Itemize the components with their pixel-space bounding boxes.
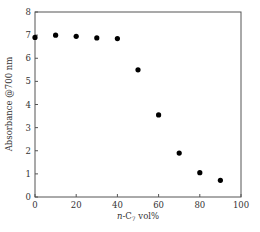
y-tick-label: 4 (26, 100, 31, 110)
y-tick-label: 6 (26, 53, 31, 63)
x-tick-label: 100 (233, 200, 249, 210)
y-tick-label: 8 (26, 7, 31, 17)
data-point (74, 34, 79, 39)
x-tick-label: 60 (153, 200, 164, 210)
data-point (32, 35, 37, 40)
plot-area (35, 12, 241, 197)
y-tick-label: 0 (26, 192, 31, 202)
data-point (94, 35, 99, 40)
data-point (135, 67, 140, 72)
data-point (177, 150, 182, 155)
data-point (156, 112, 161, 117)
data-point (197, 170, 202, 175)
y-tick-label: 3 (26, 123, 31, 133)
data-point (115, 36, 120, 41)
scatter-chart: 012345678 020406080100 Absorbance @700 n… (0, 0, 260, 232)
axes-frame (35, 12, 241, 197)
x-tick-label: 0 (32, 200, 37, 210)
y-tick-label: 5 (26, 76, 31, 86)
y-tick-label: 2 (26, 146, 31, 156)
x-tick-label: 40 (112, 200, 123, 210)
x-axis-label: n-C7 vol% (117, 211, 159, 222)
y-axis-label: Absorbance @700 nm (4, 57, 14, 153)
x-tick-label: 20 (71, 200, 82, 210)
y-tick-label: 7 (26, 30, 31, 40)
data-point (218, 178, 223, 183)
x-tick-label: 80 (194, 200, 205, 210)
data-points (32, 33, 223, 183)
y-tick-label: 1 (26, 169, 31, 179)
data-point (53, 33, 58, 38)
x-axis-ticks: 020406080100 (32, 194, 249, 210)
